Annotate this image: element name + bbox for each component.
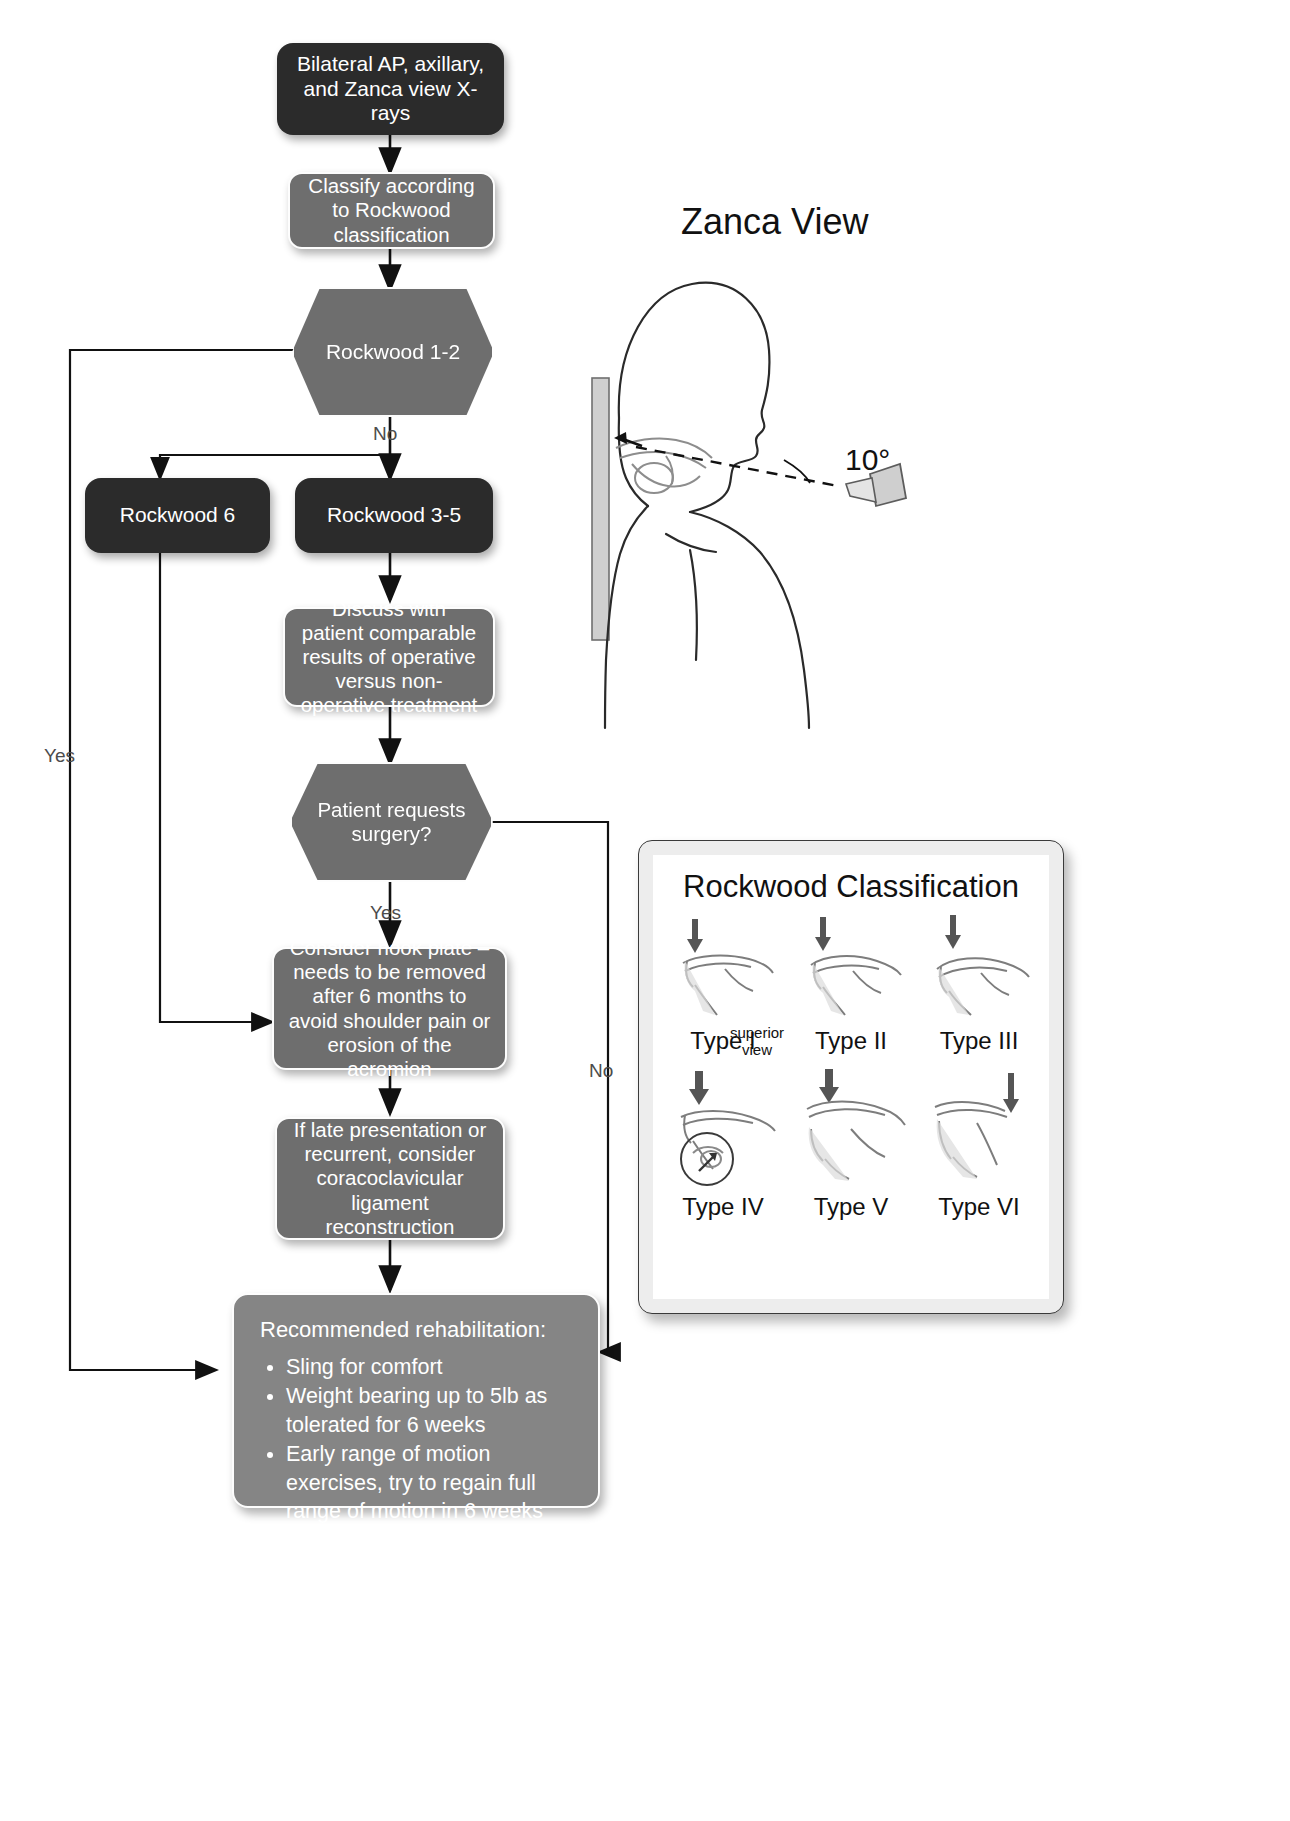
edge-label-requests-yes: Yes xyxy=(370,902,401,924)
rockwood-classification-panel: Rockwood Classification Type I xyxy=(638,840,1064,1314)
rockwood-type-cell: Type III xyxy=(915,911,1043,1055)
load-arrow-icon xyxy=(819,1069,839,1103)
flow-node-rockwood-1-2[interactable]: Rockwood 1-2 xyxy=(292,287,494,417)
zanca-view-title: Zanca View xyxy=(681,201,868,243)
rockwood-types-row-1: Type I Type II xyxy=(659,911,1043,1055)
type-label: Type II xyxy=(787,1027,915,1055)
type-label: Type V xyxy=(787,1193,915,1221)
rockwood-type-cell: superior view Type IV xyxy=(659,1067,787,1221)
flow-node-rockwood-6[interactable]: Rockwood 6 xyxy=(85,478,270,553)
type-5-illustration xyxy=(791,1067,911,1187)
flow-node-label: Rockwood 6 xyxy=(120,503,236,528)
list-item: Return to normal activity in 12 weeks xyxy=(286,1526,580,1583)
edge-label-requests-no: No xyxy=(589,1060,613,1082)
flow-node-classify[interactable]: Classify according to Rockwood classific… xyxy=(288,172,495,249)
flow-node-label: Patient requests surgery? xyxy=(292,798,491,846)
flow-node-label: Rockwood 3-5 xyxy=(327,503,461,528)
zanca-beam-angle-label: 10° xyxy=(845,443,890,477)
type-label: Type IV xyxy=(659,1193,787,1221)
flow-node-label: Rockwood 1-2 xyxy=(326,340,460,365)
flow-node-ligament-reconstruction[interactable]: If late presentation or recurrent, consi… xyxy=(275,1117,505,1240)
flow-node-patient-requests-surgery[interactable]: Patient requests surgery? xyxy=(290,762,493,882)
type-4-illustration xyxy=(663,1067,783,1187)
type-3-illustration xyxy=(919,911,1039,1021)
flow-node-label: Consider hook plate – needs to be remove… xyxy=(288,936,491,1081)
type-6-illustration xyxy=(919,1067,1039,1187)
flow-node-label: Bilateral AP, axillary, and Zanca view X… xyxy=(293,52,488,126)
flow-node-label: Discuss with patient comparable results … xyxy=(299,597,479,718)
flow-node-xrays[interactable]: Bilateral AP, axillary, and Zanca view X… xyxy=(277,43,504,135)
edge-label-rockwood12-no: No xyxy=(373,423,397,445)
type-2-illustration xyxy=(791,911,911,1021)
list-item: Weight bearing up to 5lb as tolerated fo… xyxy=(286,1382,580,1439)
rockwood-type-cell: Type VI xyxy=(915,1067,1043,1221)
rockwood-type-cell: Type V xyxy=(787,1067,915,1221)
panel-title: Rockwood Classification xyxy=(659,869,1043,905)
flow-node-discuss[interactable]: Discuss with patient comparable results … xyxy=(283,607,495,707)
load-arrow-icon xyxy=(815,917,831,951)
flow-node-label: Classify according to Rockwood classific… xyxy=(302,174,481,247)
flow-node-hook-plate[interactable]: Consider hook plate – needs to be remove… xyxy=(272,947,507,1070)
rehab-heading: Recommended rehabilitation: xyxy=(260,1317,580,1343)
zanca-view-illustration xyxy=(570,250,1030,730)
superior-view-text: superior view xyxy=(730,1024,784,1058)
type-label: Type VI xyxy=(915,1193,1043,1221)
rockwood-types-row-2: superior view Type IV Type V xyxy=(659,1067,1043,1221)
flow-node-recommended-rehabilitation[interactable]: Recommended rehabilitation: Sling for co… xyxy=(232,1293,600,1508)
load-arrow-icon xyxy=(1003,1073,1019,1113)
list-item: Early range of motion exercises, try to … xyxy=(286,1440,580,1525)
load-arrow-icon xyxy=(945,915,961,949)
flow-node-rockwood-3-5[interactable]: Rockwood 3-5 xyxy=(295,478,493,553)
detector-plate-icon xyxy=(592,378,609,640)
edge-label-rockwood12-yes: Yes xyxy=(44,745,75,767)
flow-node-label: If late presentation or recurrent, consi… xyxy=(291,1118,489,1239)
rockwood-type-cell: Type II xyxy=(787,911,915,1055)
type-label: Type III xyxy=(915,1027,1043,1055)
superior-view-annotation: superior view xyxy=(727,1025,787,1058)
type-1-illustration xyxy=(663,911,783,1021)
rehab-list: Sling for comfort Weight bearing up to 5… xyxy=(256,1353,580,1583)
load-arrow-icon xyxy=(687,919,703,953)
superior-view-inset-circle xyxy=(681,1133,733,1185)
list-item: Sling for comfort xyxy=(286,1353,580,1381)
load-arrow-icon xyxy=(689,1071,709,1105)
